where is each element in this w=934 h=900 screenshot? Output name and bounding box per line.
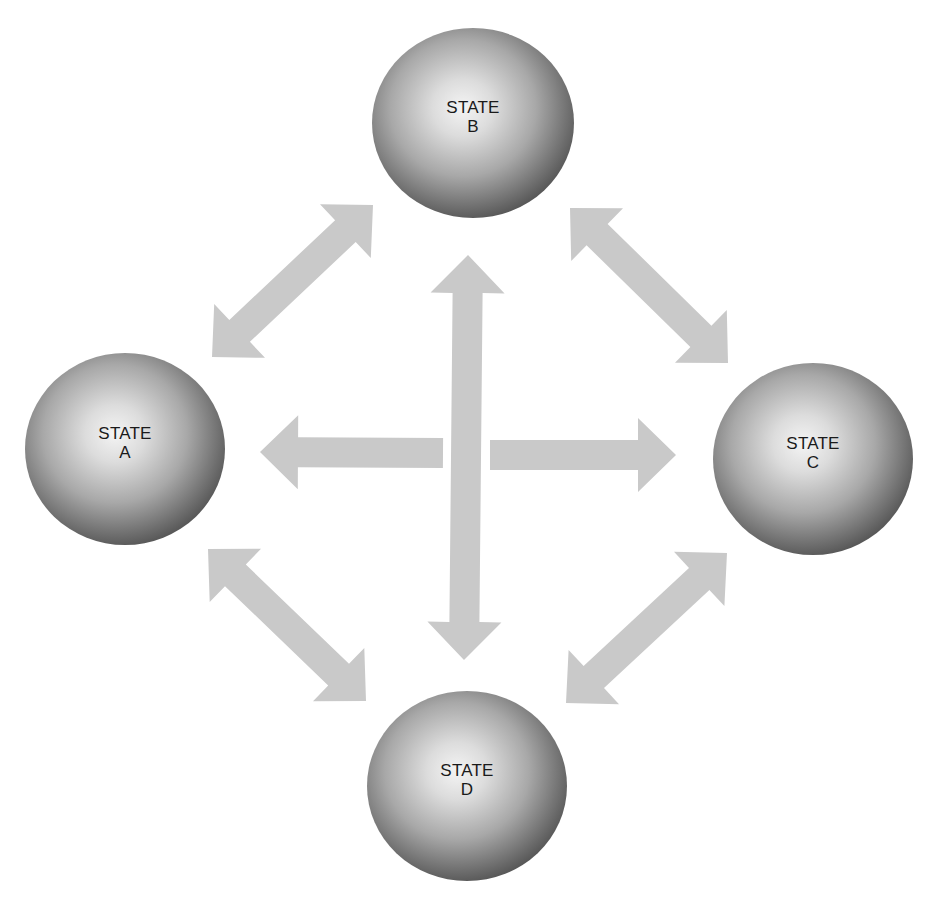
state-c-label-line1: STATE xyxy=(786,434,839,453)
arrow-center-to-a-icon xyxy=(260,415,443,489)
state-c-label-line2: C xyxy=(807,453,819,472)
state-b-label-line1: STATE xyxy=(446,98,499,117)
arrow-a-d-bidirectional-icon xyxy=(208,549,366,702)
state-d-node[interactable]: STATE D xyxy=(367,685,567,875)
arrow-center-to-c-icon xyxy=(490,418,676,492)
arrow-b-c-bidirectional-icon xyxy=(570,208,728,363)
state-d-label-line2: D xyxy=(461,780,473,799)
arrow-c-d-bidirectional-icon xyxy=(566,552,727,704)
state-a-label-line1: STATE xyxy=(98,424,151,443)
state-a-label-line2: A xyxy=(119,443,131,462)
state-b-label-line2: B xyxy=(467,117,479,136)
arrow-a-b-bidirectional-icon xyxy=(212,204,373,358)
transition-arrows xyxy=(208,204,728,704)
state-d-label-line1: STATE xyxy=(440,761,493,780)
state-a-node[interactable]: STATE A xyxy=(25,347,225,539)
state-c-node[interactable]: STATE C xyxy=(713,357,913,549)
state-b-node[interactable]: STATE B xyxy=(372,22,574,212)
